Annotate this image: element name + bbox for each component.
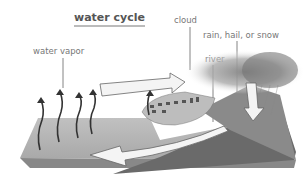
evaporation-arrow [100,73,185,96]
water-cycle-illustration [0,0,306,191]
coast [142,92,215,125]
